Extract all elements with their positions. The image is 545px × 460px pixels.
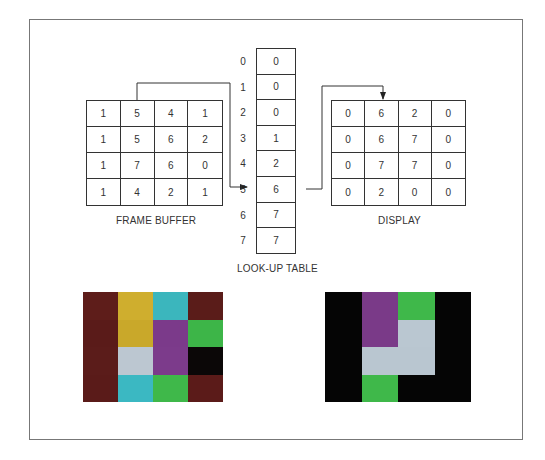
color-pixel: [188, 347, 223, 375]
display-label: DISPLAY: [378, 215, 421, 226]
lut-index: 5: [236, 184, 250, 195]
color-pixel: [435, 375, 472, 403]
fb-cell: 1: [87, 153, 121, 179]
color-pixel: [153, 375, 188, 403]
lut-index: 0: [236, 56, 250, 67]
color-pixel: [398, 347, 435, 375]
display-cell: 0: [432, 153, 465, 179]
lut-index: 1: [236, 82, 250, 93]
color-pixel: [83, 320, 118, 348]
fb-cell: 2: [155, 179, 189, 205]
color-pixel: [153, 292, 188, 320]
color-pixel: [362, 375, 399, 403]
display-color-image: [325, 292, 471, 402]
fb-cell: 1: [87, 179, 121, 205]
display-cell: 6: [365, 101, 398, 127]
color-pixel: [188, 375, 223, 403]
color-pixel: [398, 292, 435, 320]
display-cell: 0: [332, 153, 365, 179]
color-pixel: [325, 320, 362, 348]
display-cell: 0: [432, 179, 465, 205]
color-pixel: [362, 347, 399, 375]
lut-value: 7: [257, 228, 295, 254]
display-grid: 0 6 2 0 0 6 7 0 0 7 7 0 0 2 0 0: [331, 100, 466, 206]
fb-cell: 0: [188, 153, 222, 179]
display-cell: 0: [432, 101, 465, 127]
display-cell: 6: [365, 127, 398, 153]
color-pixel: [325, 292, 362, 320]
lut-value: 0: [257, 75, 295, 101]
color-pixel: [398, 375, 435, 403]
lut-index: 3: [236, 133, 250, 144]
color-pixel: [118, 320, 153, 348]
display-cell: 0: [332, 101, 365, 127]
color-pixel: [435, 292, 472, 320]
fb-cell: 2: [188, 127, 222, 153]
lut-index: 6: [236, 210, 250, 221]
color-pixel: [325, 375, 362, 403]
lut-value: 0: [257, 49, 295, 75]
color-pixel: [118, 375, 153, 403]
color-pixel: [435, 347, 472, 375]
color-pixel: [118, 292, 153, 320]
color-pixel: [398, 320, 435, 348]
display-cell: 2: [399, 101, 432, 127]
lut-value: 1: [257, 126, 295, 152]
lookup-table: 0 0 0 1 2 6 7 7: [256, 48, 296, 254]
fb-cell: 4: [121, 179, 155, 205]
color-pixel: [83, 292, 118, 320]
fb-cell: 1: [188, 101, 222, 127]
color-pixel: [362, 292, 399, 320]
fb-cell: 7: [121, 153, 155, 179]
display-cell: 0: [399, 179, 432, 205]
lut-index: 4: [236, 158, 250, 169]
color-pixel: [83, 375, 118, 403]
display-cell: 7: [399, 127, 432, 153]
fb-cell: 5: [121, 127, 155, 153]
fb-cell: 1: [188, 179, 222, 205]
lut-value: 0: [257, 100, 295, 126]
display-cell: 0: [332, 127, 365, 153]
lut-index: 7: [236, 235, 250, 246]
color-pixel: [153, 347, 188, 375]
lut-value: 2: [257, 151, 295, 177]
fb-cell: 6: [155, 153, 189, 179]
color-pixel: [188, 320, 223, 348]
frame-buffer-color-image: [83, 292, 223, 402]
lut-index: 2: [236, 107, 250, 118]
lut-value: 6: [257, 177, 295, 203]
color-pixel: [153, 320, 188, 348]
color-pixel: [118, 347, 153, 375]
frame-buffer-grid: 1 5 4 1 1 5 6 2 1 7 6 0 1 4 2 1: [86, 100, 223, 206]
color-pixel: [188, 292, 223, 320]
lookup-table-label: LOOK-UP TABLE: [237, 263, 318, 274]
display-cell: 0: [332, 179, 365, 205]
color-pixel: [83, 347, 118, 375]
display-cell: 0: [432, 127, 465, 153]
color-pixel: [435, 320, 472, 348]
frame-buffer-label: FRAME BUFFER: [116, 215, 196, 226]
display-cell: 7: [365, 153, 398, 179]
fb-cell: 6: [155, 127, 189, 153]
lut-value: 7: [257, 203, 295, 229]
fb-cell: 5: [121, 101, 155, 127]
display-cell: 2: [365, 179, 398, 205]
fb-cell: 1: [87, 127, 121, 153]
color-pixel: [362, 320, 399, 348]
fb-cell: 1: [87, 101, 121, 127]
display-cell: 7: [399, 153, 432, 179]
color-pixel: [325, 347, 362, 375]
fb-cell: 4: [155, 101, 189, 127]
